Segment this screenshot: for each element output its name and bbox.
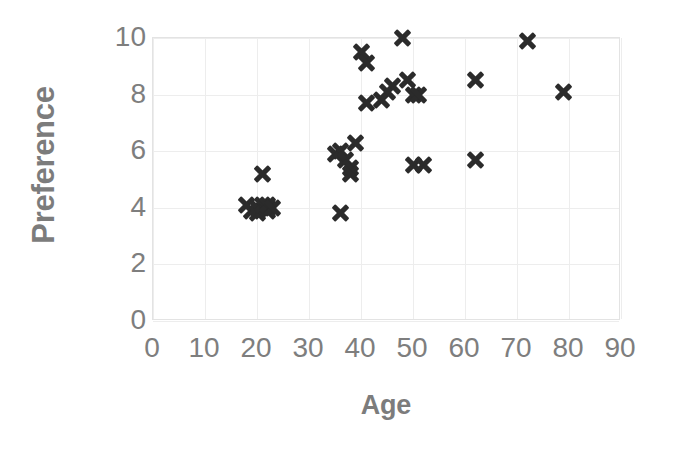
x-tick-label: 30	[278, 334, 338, 362]
x-tick-label: 80	[538, 334, 598, 362]
x-tick-label: 20	[226, 334, 286, 362]
x-tick-label: 90	[590, 334, 650, 362]
x-tick-label: 60	[434, 334, 494, 362]
x-tick-label: 50	[382, 334, 442, 362]
x-tick-label: 40	[330, 334, 390, 362]
scatter-chart: 0246810 0102030405060708090 Preference A…	[0, 0, 698, 457]
x-tick-label: 70	[486, 334, 546, 362]
x-tick-label: 10	[174, 334, 234, 362]
x-axis-title: Age	[152, 390, 620, 421]
x-tick-label: 0	[122, 334, 182, 362]
x-axis-tick-labels: 0102030405060708090	[0, 0, 698, 457]
